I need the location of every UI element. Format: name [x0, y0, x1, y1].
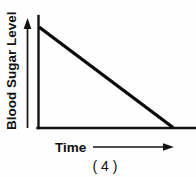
- figure-panel: Blood Sugar Level Time ( 4 ): [0, 0, 196, 177]
- blood-sugar-line-graph: Blood Sugar Level Time ( 4 ): [0, 0, 196, 177]
- y-axis-label: Blood Sugar Level: [4, 11, 19, 130]
- x-axis-label: Time: [55, 140, 87, 155]
- figure-caption: ( 4 ): [93, 158, 118, 174]
